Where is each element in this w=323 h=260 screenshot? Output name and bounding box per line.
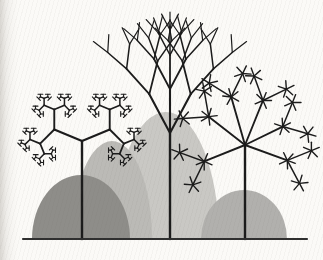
fractal-trees-svg xyxy=(0,0,323,260)
background-mounds xyxy=(32,112,287,239)
figure-panel xyxy=(0,0,323,260)
